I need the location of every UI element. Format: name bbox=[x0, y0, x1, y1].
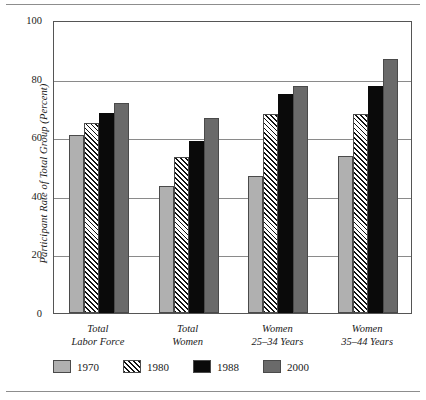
y-tick-label-60: 60 bbox=[0, 133, 42, 144]
legend-item-1970[interactable]: 1970 bbox=[53, 360, 123, 373]
legend-label-1988: 1988 bbox=[217, 361, 239, 373]
y-tick-label-0: 0 bbox=[0, 309, 42, 320]
y-tick-label-20: 20 bbox=[0, 250, 42, 261]
bar-groups bbox=[54, 22, 411, 313]
x-category-label-line: Total bbox=[143, 322, 233, 335]
bar-2000 bbox=[383, 59, 398, 313]
x-category-label-line: Women bbox=[143, 335, 233, 348]
x-category-label: Women25–34 Years bbox=[233, 322, 323, 348]
legend-item-1988[interactable]: 1988 bbox=[193, 360, 263, 373]
bar-group bbox=[248, 22, 308, 313]
bar-1980 bbox=[263, 114, 278, 313]
bar-1970 bbox=[159, 186, 174, 313]
y-tick-label-40: 40 bbox=[0, 192, 42, 203]
x-category-label: TotalLabor Force bbox=[53, 322, 143, 348]
legend-swatch-1970 bbox=[53, 360, 71, 373]
bar-2000 bbox=[204, 118, 219, 313]
bar-group bbox=[69, 22, 129, 313]
y-tick-label-80: 80 bbox=[0, 75, 42, 86]
bar-1970 bbox=[248, 176, 263, 313]
legend-swatch-2000 bbox=[263, 360, 281, 373]
bar-1988 bbox=[99, 113, 114, 313]
legend-swatch-1988 bbox=[193, 360, 211, 373]
x-category-label-line: Women bbox=[233, 322, 323, 335]
bar-1970 bbox=[338, 156, 353, 313]
x-category-label-line: 25–34 Years bbox=[233, 335, 323, 348]
legend-label-1970: 1970 bbox=[77, 361, 99, 373]
bar-1988 bbox=[278, 94, 293, 313]
legend-label-2000: 2000 bbox=[287, 361, 309, 373]
x-category-label-line: Labor Force bbox=[53, 335, 143, 348]
x-category-label: TotalWomen bbox=[143, 322, 233, 348]
bar-1970 bbox=[69, 135, 84, 313]
bar-1980 bbox=[84, 123, 99, 313]
bar-2000 bbox=[114, 103, 129, 313]
bar-1988 bbox=[189, 141, 204, 313]
bar-group bbox=[338, 22, 398, 313]
x-category-label-line: 35–44 Years bbox=[322, 335, 412, 348]
bar-1980 bbox=[353, 114, 368, 313]
bar-chart-figure: Participant Rate of Total Group (Percent… bbox=[0, 0, 426, 400]
bar-group bbox=[159, 22, 219, 313]
x-category-label-line: Women bbox=[322, 322, 412, 335]
bar-1980 bbox=[174, 157, 189, 313]
legend-item-1980[interactable]: 1980 bbox=[123, 360, 193, 373]
chart-legend: 1970198019882000 bbox=[53, 360, 333, 373]
y-axis-title: Participant Rate of Total Group (Percent… bbox=[38, 24, 49, 324]
legend-label-1980: 1980 bbox=[147, 361, 169, 373]
plot-area bbox=[53, 21, 412, 314]
legend-item-2000[interactable]: 2000 bbox=[263, 360, 333, 373]
x-category-label: Women35–44 Years bbox=[322, 322, 412, 348]
bar-2000 bbox=[293, 86, 308, 313]
bar-1988 bbox=[368, 86, 383, 313]
legend-swatch-1980 bbox=[123, 360, 141, 373]
x-category-label-line: Total bbox=[53, 322, 143, 335]
y-tick-label-100: 100 bbox=[0, 16, 42, 27]
